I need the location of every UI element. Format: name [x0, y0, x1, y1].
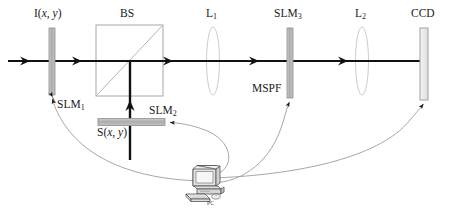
- label-slm-3: SLM3: [274, 8, 302, 21]
- pc-workstation: [186, 166, 224, 202]
- label-lens-2: L2: [355, 8, 366, 21]
- label-signal-field: S(x, y): [97, 127, 127, 139]
- label-lens-1: L1: [206, 8, 217, 21]
- label-ccd: CCD: [411, 8, 435, 20]
- label-beam-splitter: BS: [120, 8, 134, 20]
- slm2-modulator: [98, 119, 165, 126]
- label-slm-2: SLM2: [149, 105, 177, 118]
- label-slm-1: SLM1: [57, 99, 85, 112]
- slm1-modulator: [49, 28, 55, 95]
- pc-control-wires: [53, 99, 424, 183]
- optical-setup-diagram: I(x, y) BS L1 SLM3 L2 CCD SLM1 SLM2 S(x,…: [0, 0, 453, 218]
- label-pc: PC: [207, 201, 214, 207]
- slm3-modulator: [287, 28, 293, 98]
- label-input-field: I(x, y): [34, 8, 61, 20]
- label-mspf: MSPF: [252, 83, 281, 95]
- ccd-detector: [420, 28, 428, 100]
